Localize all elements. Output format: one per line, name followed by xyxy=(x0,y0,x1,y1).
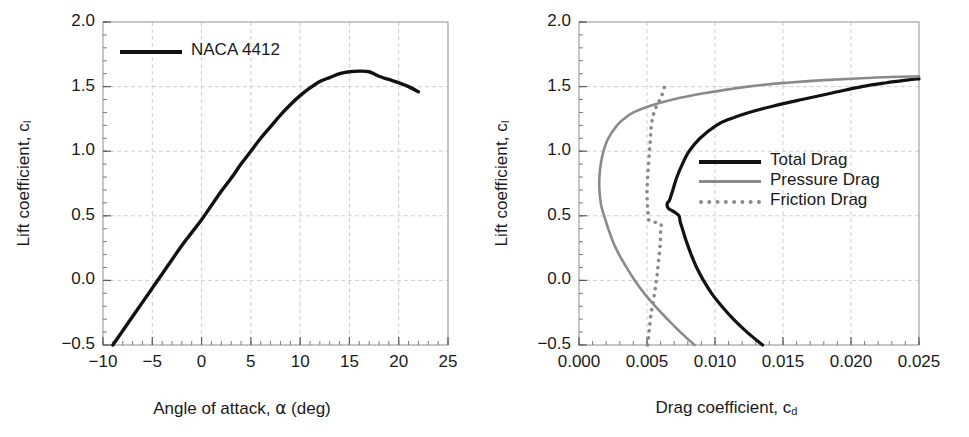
legend-label: NACA 4412 xyxy=(191,40,280,60)
left-x-axis-title: Angle of attack, α (deg) xyxy=(0,398,484,419)
curve-total-drag xyxy=(667,79,919,345)
y-tick-label: 0.5 xyxy=(33,205,95,225)
y-tick-label: 2.0 xyxy=(33,11,95,31)
panel-drag-polar: Lift coefficient, cl Total DragPressure … xyxy=(484,0,969,437)
y-tick-label: −0.5 xyxy=(509,334,571,354)
left-legend: NACA 4412 xyxy=(120,40,280,60)
y-tick-label: 1.5 xyxy=(33,76,95,96)
y-tick-label: 1.0 xyxy=(509,140,571,160)
legend-item: Pressure Drag xyxy=(699,170,880,190)
y-tick-label: −0.5 xyxy=(33,334,95,354)
legend-label: Pressure Drag xyxy=(770,170,880,190)
curve-naca-4412 xyxy=(113,71,419,345)
plot-frame xyxy=(103,22,448,345)
left-y-axis-title: Lift coefficient, cl xyxy=(14,22,40,345)
legend-label: Friction Drag xyxy=(770,190,867,210)
y-tick-label: 1.5 xyxy=(509,76,571,96)
legend-item: Total Drag xyxy=(699,150,880,170)
x-tick-label: 25 xyxy=(403,352,493,372)
legend-label: Total Drag xyxy=(770,150,847,170)
legend-swatch-dotted-gray-icon xyxy=(699,194,761,206)
right-y-axis-title: Lift coefficient, cl xyxy=(492,22,518,345)
panel-lift-curve: Lift coefficient, cl NACA 4412 Angle of … xyxy=(0,0,484,437)
legend-swatch-solid-black-icon xyxy=(120,44,182,56)
legend-item: NACA 4412 xyxy=(120,40,280,60)
right-legend: Total DragPressure DragFriction Drag xyxy=(699,150,880,210)
y-tick-label: 0.5 xyxy=(509,205,571,225)
y-tick-label: 0.0 xyxy=(509,269,571,289)
legend-swatch-solid-gray-icon xyxy=(699,174,761,186)
x-tick-label: 0.025 xyxy=(874,352,964,372)
y-tick-label: 0.0 xyxy=(33,269,95,289)
legend-swatch-solid-black-icon xyxy=(699,154,761,166)
figure-two-panel-airfoil-polars: Lift coefficient, cl NACA 4412 Angle of … xyxy=(0,0,969,437)
y-tick-label: 2.0 xyxy=(509,11,571,31)
legend-item: Friction Drag xyxy=(699,190,880,210)
y-tick-label: 1.0 xyxy=(33,140,95,160)
right-x-axis-title: Drag coefficient, cd xyxy=(484,398,969,418)
